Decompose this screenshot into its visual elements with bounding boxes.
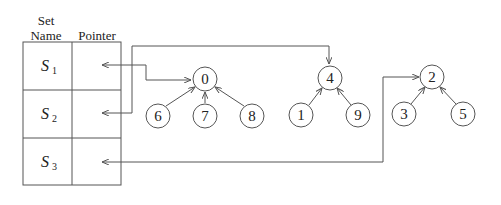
svg-text:S: S: [41, 57, 49, 74]
svg-text:S: S: [41, 153, 49, 170]
node-0-label: 0: [201, 71, 209, 87]
node-8-label: 8: [248, 108, 256, 124]
node-2-label: 2: [428, 69, 436, 85]
set-name-s3: S 3: [41, 153, 57, 172]
node-6-label: 6: [154, 108, 162, 124]
node-7-label: 7: [201, 108, 209, 124]
node-5-label: 5: [459, 106, 467, 122]
edge-8-0: [215, 87, 244, 106]
node-9-label: 9: [354, 107, 362, 123]
svg-text:S: S: [41, 105, 49, 122]
svg-text:2: 2: [52, 113, 57, 124]
node-4-label: 4: [326, 70, 334, 86]
edge-9-4: [337, 88, 351, 105]
edge-5-2: [440, 87, 456, 104]
pointer-line-s1: [146, 65, 191, 80]
edge-6-0: [166, 87, 195, 106]
disjoint-set-diagram: S 1 S 2 S 3: [0, 0, 501, 205]
set-name-s2: S 2: [41, 105, 57, 124]
edge-3-2: [411, 87, 425, 104]
node-3-label: 3: [400, 106, 408, 122]
edge-1-4: [309, 88, 322, 105]
svg-text:3: 3: [52, 161, 57, 172]
set-name-s1: S 1: [41, 57, 57, 76]
node-1-label: 1: [297, 107, 305, 123]
svg-text:1: 1: [52, 65, 57, 76]
